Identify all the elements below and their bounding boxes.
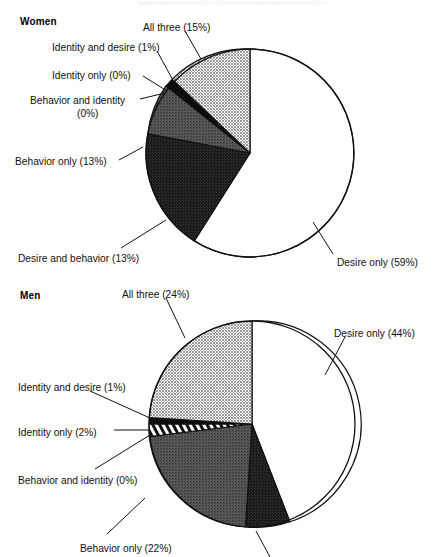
pie-label-men-identity-and-desire: Identity and desire (1%): [18, 382, 126, 394]
leader-all-three: [166, 298, 185, 338]
pie-label-men-behavior-and-identity: Behavior and identity (0%): [18, 475, 137, 487]
pie-slice-behavior-only: [149, 424, 252, 527]
leader-behavior-only: [107, 498, 145, 534]
pie-label-men-identity-only: Identity only (2%): [18, 427, 97, 439]
leader-behavior-and-identity: [95, 435, 150, 469]
pie-label-men-desire-only: Desire only (44%): [334, 328, 415, 340]
pie-label-men-all-three: All three (24%): [122, 289, 189, 301]
pie-label-men-behavior-only: Behavior only (22%): [80, 543, 172, 555]
pie-chart-men: [0, 0, 436, 557]
leader-identity-and-desire: [90, 391, 150, 418]
leader-desire-and-behavior-cropped: [256, 531, 270, 557]
pie-slice-all-three: [149, 321, 252, 424]
